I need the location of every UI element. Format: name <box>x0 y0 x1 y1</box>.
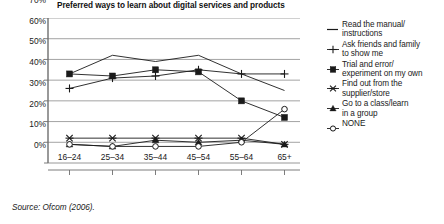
x-axis-labels: 16–24 25–34 35–44 45–54 55–64 65+ <box>48 152 300 172</box>
legend-label: Trial and error/experiment on my own <box>342 60 422 79</box>
legend-item[interactable]: Go to a class/learnin a group <box>325 99 444 118</box>
legend-label-line: Go to a class/learn <box>342 99 408 108</box>
legend-label-line: Ask friends and family <box>342 40 420 49</box>
x-tick-label: 45–54 <box>187 152 210 162</box>
legend-item[interactable]: Find out from thesupplier/store <box>325 79 444 98</box>
x-tick-label: 16–24 <box>58 152 81 162</box>
legend-marker-square-icon <box>325 61 342 72</box>
legend-label: Find out from thesupplier/store <box>342 79 402 98</box>
legend-label: Read the manual/instructions <box>342 20 405 39</box>
legend-label-line: supplier/store <box>342 89 402 98</box>
legend-item[interactable]: Ask friends and familyto show me <box>325 40 444 59</box>
legend-item[interactable]: NONE <box>325 119 444 131</box>
legend-label: Ask friends and familyto show me <box>342 40 420 59</box>
legend-label-line: Trial and error/ <box>342 60 422 69</box>
series-lines <box>66 55 289 149</box>
legend-label: Go to a class/learnin a group <box>342 99 408 118</box>
legend-marker-line-icon <box>325 21 342 32</box>
legend-marker-circle-icon <box>325 120 342 131</box>
legend-label: NONE <box>342 119 365 128</box>
y-tick-label: 70% <box>29 0 46 5</box>
legend-item[interactable]: Trial and error/experiment on my own <box>325 60 444 79</box>
legend-label-line: NONE <box>342 119 365 128</box>
legend-marker-cross-icon <box>325 80 342 91</box>
x-tick-label: 25–34 <box>101 152 124 162</box>
legend-label-line: Read the manual/ <box>342 20 405 29</box>
chart-legend: Read the manual/instructionsAsk friends … <box>325 20 444 132</box>
chart-title: Preferred ways to learn about digital se… <box>57 1 387 10</box>
x-tick-label: 35–44 <box>144 152 167 162</box>
legend-label-line: experiment on my own <box>342 69 422 78</box>
x-tick-label: 55–64 <box>230 152 253 162</box>
legend-label-line: to show me <box>342 49 420 58</box>
legend-marker-triangle-icon <box>325 100 342 111</box>
legend-label-line: instructions <box>342 29 405 38</box>
source-caption: Source: Ofcom (2006). <box>12 203 95 212</box>
chart-container: Preferred ways to learn about digital se… <box>0 0 444 224</box>
legend-marker-plus-icon <box>325 41 342 52</box>
legend-label-line: Find out from the <box>342 79 402 88</box>
x-tick-label: 65+ <box>277 152 291 162</box>
legend-item[interactable]: Read the manual/instructions <box>325 20 444 39</box>
legend-label-line: in a group <box>342 109 408 118</box>
